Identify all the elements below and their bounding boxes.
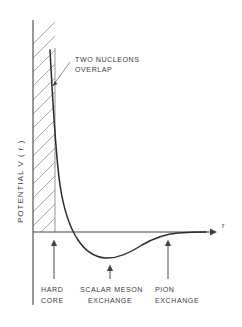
nuclear-potential-figure: POTENTIAL V ( r ) r TWO NUCLEONS OVERLAP… <box>0 0 242 327</box>
region-label-hard-core-line1: HARD <box>41 286 63 294</box>
region-label-pion-exchange-line1: PION <box>155 286 175 294</box>
figure-canvas: POTENTIAL V ( r ) r TWO NUCLEONS OVERLAP… <box>0 0 242 327</box>
region-label-scalar-meson-line1: SCALAR MESON <box>80 286 143 294</box>
x-axis-title: r <box>222 221 225 230</box>
potential-curve <box>50 50 206 258</box>
overlap-annotation-line1: TWO NUCLEONS <box>75 56 140 64</box>
hard-core-hatch-region <box>33 4 73 240</box>
hard-core-callout-arrow <box>51 240 57 280</box>
overlap-annotation-line2: OVERLAP <box>75 66 112 74</box>
x-axis-arrowhead <box>210 229 217 236</box>
hatch-lines <box>33 4 73 240</box>
region-label-scalar-meson-line2: EXCHANGE <box>88 297 132 305</box>
scalar-meson-callout-arrow <box>107 265 113 280</box>
region-label-hard-core-line2: CORE <box>41 297 64 305</box>
region-label-pion-exchange-line2: EXCHANGE <box>155 297 199 305</box>
overlap-leader-line <box>54 62 70 84</box>
pion-exchange-callout-arrow <box>165 240 171 280</box>
y-axis-title: POTENTIAL V ( r ) <box>16 140 25 223</box>
